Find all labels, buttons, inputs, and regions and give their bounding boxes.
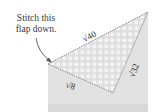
caption-line-2: flap down. [6,24,66,35]
caption: Stitch this flap down. [6,13,66,35]
paper-bottom-strip [48,104,148,112]
stitch-flap-diagram: √40 √32 √8 Stitch this flap down. [0,0,152,112]
caption-line-1: Stitch this [6,13,66,24]
arrow-icon [36,38,50,61]
